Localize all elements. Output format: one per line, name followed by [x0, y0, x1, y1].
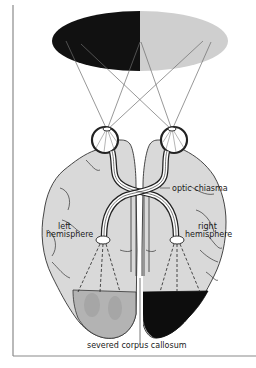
label-optic-chiasma: optic chiasma	[172, 184, 228, 193]
left-eye	[92, 127, 118, 153]
right-occipital-lobe	[143, 291, 208, 338]
split-brain-diagram: optic chiasma left hemisphere right hemi…	[0, 0, 256, 368]
right-eye	[161, 127, 187, 153]
visual-field-left-dark	[50, 8, 140, 78]
label-right-hemisphere-line2: hemisphere	[185, 230, 232, 239]
right-geniculate-node	[170, 236, 184, 244]
left-geniculate-node	[96, 236, 110, 244]
visual-field-right-light	[140, 8, 232, 78]
label-left-hemisphere-line2: hemisphere	[46, 230, 93, 239]
left-occipital-mottle	[108, 296, 122, 320]
left-occipital-mottle	[84, 293, 100, 317]
label-severed-corpus-callosum: severed corpus callosum	[87, 341, 187, 350]
left-occipital-lobe	[73, 290, 136, 338]
